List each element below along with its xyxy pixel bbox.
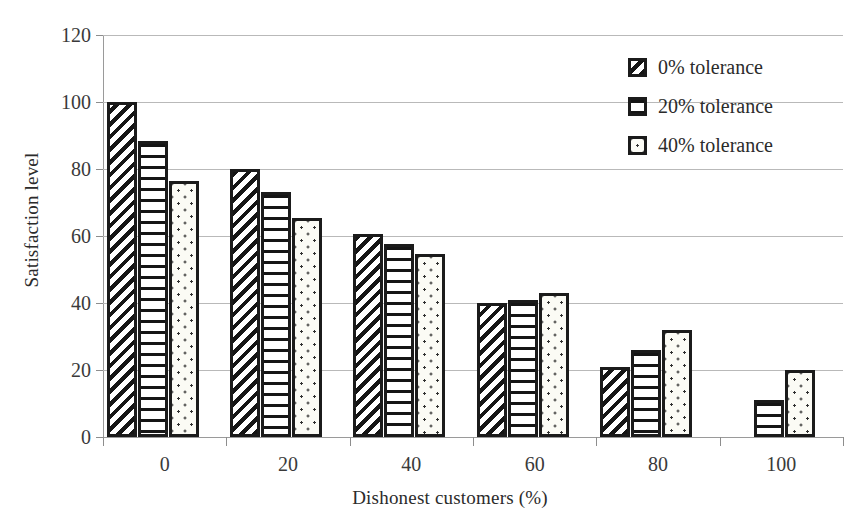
x-axis-title: Dishonest customers (%) xyxy=(100,487,800,509)
legend-label: 0% tolerance xyxy=(658,56,763,79)
legend-swatch-dots xyxy=(628,136,647,155)
x-tick-label: 60 xyxy=(525,453,545,476)
bar-group xyxy=(473,35,596,437)
chart-legend: 0% tolerance20% tolerance40% tolerance xyxy=(628,48,843,165)
bar xyxy=(292,218,322,437)
y-axis-title: Satisfaction level xyxy=(14,0,50,440)
bar xyxy=(477,303,507,437)
bar xyxy=(169,181,199,437)
x-tick-label: 20 xyxy=(278,453,298,476)
bar-group xyxy=(103,35,226,437)
legend-label: 20% tolerance xyxy=(658,95,773,118)
y-tick-label: 80 xyxy=(71,158,91,181)
y-tick-label: 0 xyxy=(81,426,91,449)
y-tick-mark xyxy=(96,437,103,438)
legend-swatch-horizontal-lines xyxy=(628,97,647,116)
x-tick-mark xyxy=(226,437,227,446)
y-tick-label: 20 xyxy=(71,359,91,382)
legend-label: 40% tolerance xyxy=(658,134,773,157)
bar xyxy=(107,102,137,437)
bar xyxy=(508,300,538,437)
bar xyxy=(662,330,692,437)
bar xyxy=(415,254,445,437)
bar xyxy=(138,141,168,437)
bar xyxy=(230,169,260,437)
bar xyxy=(631,350,661,437)
bar xyxy=(600,367,630,437)
x-tick-label: 40 xyxy=(401,453,421,476)
x-tick-label: 100 xyxy=(766,453,796,476)
bar xyxy=(384,244,414,437)
bar xyxy=(785,370,815,437)
legend-item: 20% tolerance xyxy=(628,87,843,126)
bar xyxy=(754,400,784,437)
bar xyxy=(353,234,383,437)
bar-group xyxy=(350,35,473,437)
y-tick-label: 60 xyxy=(71,225,91,248)
y-tick-mark xyxy=(96,303,103,304)
bar xyxy=(261,192,291,437)
x-tick-label: 80 xyxy=(648,453,668,476)
legend-item: 0% tolerance xyxy=(628,48,843,87)
y-tick-label: 100 xyxy=(61,91,91,114)
y-tick-label: 40 xyxy=(71,292,91,315)
legend-item: 40% tolerance xyxy=(628,126,843,165)
legend-swatch-diagonal-hatch xyxy=(628,58,647,77)
x-tick-mark xyxy=(473,437,474,446)
x-tick-mark xyxy=(843,437,844,446)
x-tick-label: 0 xyxy=(160,453,170,476)
y-tick-mark xyxy=(96,102,103,103)
y-tick-label: 120 xyxy=(61,24,91,47)
y-tick-mark xyxy=(96,35,103,36)
x-tick-mark xyxy=(103,437,104,446)
x-tick-mark xyxy=(350,437,351,446)
bar-group xyxy=(226,35,349,437)
bar-chart: Satisfaction level 020406080100120 02040… xyxy=(0,0,863,530)
y-tick-mark xyxy=(96,370,103,371)
y-tick-mark xyxy=(96,236,103,237)
bar xyxy=(539,293,569,437)
y-tick-mark xyxy=(96,169,103,170)
x-tick-mark xyxy=(596,437,597,446)
x-tick-mark xyxy=(720,437,721,446)
